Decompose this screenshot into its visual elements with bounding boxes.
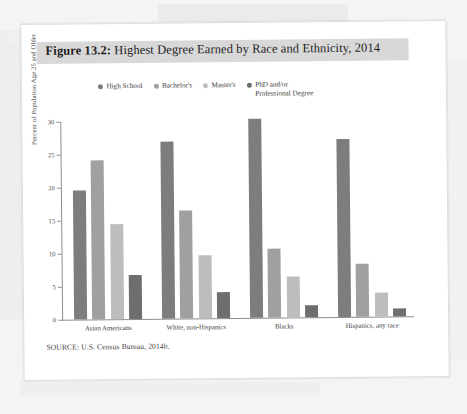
- y-axis-tick: [57, 221, 61, 222]
- figure-source: SOURCE: U.S. Census Bureau, 2014b.: [46, 342, 169, 352]
- bar-group: [72, 160, 142, 320]
- y-axis-tick-label: 10: [49, 250, 56, 257]
- y-axis-tick: [58, 320, 62, 321]
- bar[interactable]: [268, 249, 282, 318]
- x-axis-tick-label: White, non-Hispanics: [167, 323, 226, 331]
- bar[interactable]: [356, 263, 370, 317]
- y-axis-tick-label: 0: [53, 316, 56, 323]
- bar[interactable]: [336, 139, 351, 317]
- bar[interactable]: [198, 255, 212, 318]
- bar-group: [248, 119, 318, 318]
- y-axis-tick: [57, 155, 61, 156]
- y-axis-tick: [58, 254, 62, 255]
- bar[interactable]: [160, 142, 175, 319]
- figure-page: Figure 13.2: Highest Degree Earned by Ra…: [20, 20, 449, 381]
- plot-area: 051015202530Asian AmericansWhite, non-Hi…: [60, 118, 414, 320]
- bar-group: [336, 139, 406, 317]
- scan-artifact-bottom: [20, 382, 320, 396]
- y-axis-tick: [58, 287, 62, 288]
- y-axis-tick-label: 15: [49, 217, 56, 224]
- bar[interactable]: [73, 190, 87, 319]
- bar[interactable]: [375, 292, 388, 317]
- bar[interactable]: [305, 305, 318, 317]
- bar[interactable]: [248, 119, 263, 318]
- x-axis-tick-label: Hispanics, any race: [346, 321, 399, 329]
- y-axis-tick-label: 20: [48, 184, 55, 191]
- y-axis-tick-label: 5: [52, 283, 55, 290]
- y-axis-tick-label: 25: [48, 151, 55, 158]
- chart-plot-wrapper: Percent of Population Age 25 and Older 0…: [21, 21, 448, 380]
- x-axis-tick-label: Blacks: [275, 322, 294, 329]
- bar[interactable]: [91, 160, 106, 319]
- bar[interactable]: [129, 275, 142, 319]
- y-axis-tick-label: 30: [48, 118, 55, 125]
- bar[interactable]: [179, 210, 193, 318]
- bar[interactable]: [286, 276, 299, 317]
- bar-group: [160, 141, 230, 319]
- y-axis-tick: [56, 122, 60, 123]
- bar[interactable]: [110, 224, 124, 319]
- bar[interactable]: [393, 308, 406, 316]
- y-axis-label: Percent of Population Age 25 and Older: [29, 34, 37, 145]
- x-axis-tick-label: Asian Americans: [85, 324, 132, 331]
- y-axis-tick: [57, 188, 61, 189]
- bar[interactable]: [217, 292, 230, 318]
